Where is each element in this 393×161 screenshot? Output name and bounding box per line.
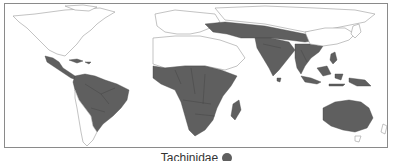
- legend: Tachinidae: [0, 150, 393, 161]
- world-map: [5, 4, 388, 148]
- range-sri-lanka: [277, 78, 281, 82]
- range-indonesia: [301, 66, 345, 86]
- range-madagascar: [231, 100, 241, 120]
- north-america: [13, 8, 115, 56]
- europe: [155, 10, 220, 34]
- japan: [351, 24, 361, 38]
- tasmania: [355, 136, 361, 142]
- legend-label: Tachinidae: [161, 151, 218, 161]
- range-australia: [323, 100, 373, 132]
- range-philippines: [330, 52, 337, 64]
- range-india: [255, 38, 295, 76]
- range-africa: [153, 66, 237, 136]
- range-new-guinea: [349, 78, 371, 86]
- new-zealand: [381, 124, 387, 134]
- north-africa-middle-east: [153, 36, 245, 70]
- map-frame: [4, 3, 388, 148]
- range-caribbean: [69, 59, 91, 64]
- legend-swatch-icon: [222, 153, 232, 161]
- east-asia: [305, 28, 355, 46]
